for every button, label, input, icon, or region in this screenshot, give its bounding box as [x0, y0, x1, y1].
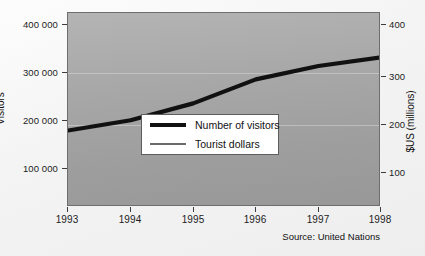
- y-tick-left: [62, 168, 67, 169]
- legend-swatch-tourist-dollars: [150, 143, 186, 145]
- x-tick-label: 1995: [182, 214, 205, 225]
- x-tick-label: 1993: [56, 214, 79, 225]
- chart-figure: 400 000 300 000 200 000 100 000 400 300 …: [0, 0, 425, 256]
- y-tick-left: [62, 72, 67, 73]
- legend-label-tourist-dollars: Tourist dollars: [195, 138, 260, 150]
- y-axis-title-right: $US (millions): [405, 90, 416, 152]
- y-tick-left: [62, 24, 67, 25]
- x-tick: [193, 207, 194, 212]
- legend-swatch-visitors: [150, 123, 186, 127]
- x-tick: [380, 207, 381, 212]
- x-tick: [67, 207, 68, 212]
- y-tick-label-left: 200 000: [6, 115, 58, 126]
- legend-item-visitors: Number of visitors: [150, 119, 278, 131]
- x-tick: [255, 207, 256, 212]
- y-tick-label-left: 100 000: [6, 163, 58, 174]
- y-tick-label-left: 400 000: [6, 19, 58, 30]
- x-tick: [318, 207, 319, 212]
- x-tick: [130, 207, 131, 212]
- y-tick-right: [381, 172, 386, 173]
- y-tick-label-right: 200: [389, 119, 405, 130]
- x-tick-label: 1998: [369, 214, 392, 225]
- x-tick-label: 1997: [307, 214, 330, 225]
- y-tick-label-left: 300 000: [6, 67, 58, 78]
- y-tick-left: [62, 120, 67, 121]
- plot-area: [67, 12, 380, 206]
- y-tick-right: [381, 24, 386, 25]
- y-tick-right: [381, 124, 386, 125]
- x-tick-label: 1994: [119, 214, 142, 225]
- y-tick-label-right: 100: [389, 167, 405, 178]
- y-axis-title-left: Visitors: [0, 92, 6, 125]
- y-tick-right: [381, 76, 386, 77]
- y-tick-label-right: 300: [389, 71, 405, 82]
- chart-legend: Number of visitors Tourist dollars: [141, 114, 279, 155]
- x-tick-label: 1996: [244, 214, 267, 225]
- legend-label-visitors: Number of visitors: [195, 119, 280, 131]
- y-tick-label-right: 400: [389, 19, 405, 30]
- series-lines: [68, 13, 380, 206]
- source-note: Source: United Nations: [0, 231, 380, 242]
- legend-item-tourist-dollars: Tourist dollars: [150, 138, 278, 150]
